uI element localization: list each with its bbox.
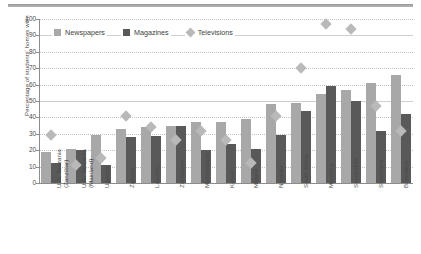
bar-group: [139, 19, 164, 183]
x-tick-label: Mauritius: [328, 163, 335, 188]
x-tick-label: South Africa: [303, 155, 310, 188]
bar-newspapers[interactable]: [41, 152, 51, 183]
y-tick-label-40: 40: [0, 114, 36, 120]
bar-newspapers[interactable]: [316, 94, 326, 183]
televisions-diamond-icon: [185, 28, 195, 38]
bar-newspapers[interactable]: [341, 90, 351, 183]
x-tick-label: Seychelles: [353, 158, 360, 188]
bar-newspapers[interactable]: [366, 83, 376, 183]
legend-label-televisions: Televisions: [198, 28, 233, 37]
y-tick-label-90: 90: [0, 32, 36, 38]
chart-legend: Newspapers Magazines Televisions: [52, 27, 235, 38]
y-tick-label-30: 30: [0, 131, 36, 137]
y-tick-label-0: 0: [0, 180, 36, 186]
legend-label-magazines: Magazines: [134, 28, 169, 37]
bar-group: [313, 19, 338, 183]
chart-figure: Percentage of students' homes with: 0102…: [0, 0, 421, 254]
x-tick-label: Zimbabwe: [179, 159, 186, 188]
bar-group: [388, 19, 413, 183]
x-tick-label: Uganda: [104, 166, 111, 188]
y-tick-label-10: 10: [0, 164, 36, 170]
x-tick-label: Mozambique: [204, 153, 211, 188]
x-tick-label: U.R. Tanzania (Zanzibar): [56, 149, 69, 188]
x-tick-label: Swaziland: [378, 160, 385, 188]
bar-newspapers[interactable]: [141, 127, 151, 183]
x-tick-label: Kenya: [229, 170, 236, 188]
legend-item-newspapers: Newspapers: [52, 27, 107, 38]
x-tick-label: Lesotho: [154, 166, 161, 188]
x-tick-label: Zambia: [129, 167, 136, 188]
x-tick-label: U.R. Tanzania (Mainland): [81, 149, 94, 188]
bar-group: [263, 19, 288, 183]
legend-item-magazines: Magazines: [121, 27, 171, 38]
y-tick-label-20: 20: [0, 147, 36, 153]
bar-group: [214, 19, 239, 183]
y-tick-label-70: 70: [0, 65, 36, 71]
x-tick-label: Botswana: [403, 161, 410, 188]
legend-label-newspapers: Newspapers: [65, 28, 105, 37]
y-tick-label-80: 80: [0, 49, 36, 55]
bar-newspapers[interactable]: [116, 129, 126, 183]
newspapers-swatch-icon: [54, 29, 61, 36]
bar-newspapers[interactable]: [241, 119, 251, 183]
y-tick-label-60: 60: [0, 82, 36, 88]
top-divider-rule: [8, 4, 413, 7]
y-tick-label-50: 50: [0, 98, 36, 104]
bar-group: [114, 19, 139, 183]
x-tick-label: Namibia: [278, 165, 285, 188]
x-tick-label: Malawi: [253, 169, 260, 188]
bar-newspapers[interactable]: [291, 103, 301, 183]
magazines-swatch-icon: [123, 29, 130, 36]
legend-item-televisions: Televisions: [185, 27, 235, 38]
bar-newspapers[interactable]: [216, 122, 226, 184]
y-tick-label-100: 100: [0, 16, 36, 22]
